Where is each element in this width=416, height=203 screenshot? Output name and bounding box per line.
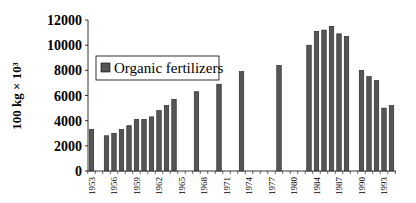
bar (374, 80, 379, 171)
bar-series-organic-fertilizers (89, 26, 394, 171)
bar (134, 119, 139, 171)
bar (127, 126, 132, 171)
x-tick-label: 1968 (199, 177, 209, 196)
bar (359, 70, 364, 171)
legend: Organic fertilizers (96, 56, 223, 80)
bar (367, 77, 372, 171)
x-tick-label: 1962 (154, 177, 164, 195)
y-tick-label: 6000 (54, 89, 82, 104)
x-tick-label: 1959 (132, 177, 142, 196)
bar (112, 133, 117, 171)
bar (149, 117, 154, 171)
bar (104, 136, 109, 171)
bar (89, 129, 94, 171)
bar (157, 111, 162, 171)
x-tick-label: 1977 (267, 177, 277, 196)
bar (194, 92, 199, 171)
bar (277, 65, 282, 171)
y-tick-label: 4000 (54, 114, 82, 129)
x-tick-label: 1993 (379, 177, 389, 196)
bar-chart: 020004000600080001000012000 195319561959… (0, 0, 416, 203)
bar (217, 84, 222, 171)
bar (329, 26, 334, 171)
bar (172, 99, 177, 171)
x-tick-label: 1980 (289, 177, 299, 196)
y-tick-label: 2000 (54, 139, 82, 154)
bar (322, 30, 327, 171)
x-tick-label: 1965 (177, 177, 187, 196)
y-tick-label: 12000 (47, 13, 82, 28)
y-axis-label: 100 kg × 10³ (9, 62, 24, 129)
bar (314, 31, 319, 171)
x-tick-label: 1971 (222, 177, 232, 195)
legend-swatch (101, 63, 110, 72)
y-tick-label: 0 (75, 164, 82, 179)
bar (164, 106, 169, 171)
bar (239, 72, 244, 171)
x-tick-label: 1974 (244, 177, 254, 196)
y-tick-label: 8000 (54, 63, 82, 78)
x-tick-label: 1987 (334, 177, 344, 196)
y-axis: 020004000600080001000012000 (47, 13, 88, 179)
bar (119, 129, 124, 171)
bar (337, 34, 342, 171)
x-tick-label: 1953 (87, 177, 97, 196)
x-axis: 1953195619591962196519681971197419771980… (87, 171, 397, 195)
y-tick-label: 10000 (47, 38, 82, 53)
bar (344, 36, 349, 171)
bar (142, 119, 147, 171)
x-tick-label: 1990 (357, 177, 367, 196)
x-tick-label: 1956 (109, 177, 119, 196)
legend-label: Organic fertilizers (114, 60, 223, 76)
bar (307, 45, 312, 171)
x-tick-label: 1984 (312, 177, 322, 196)
bar (389, 106, 394, 171)
bar (382, 108, 387, 171)
